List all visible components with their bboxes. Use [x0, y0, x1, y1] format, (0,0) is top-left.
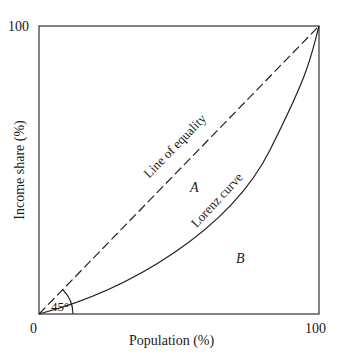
- lorenz-label: Lorenz curve: [188, 169, 246, 230]
- area-a-label: A: [189, 180, 199, 195]
- y-tick-100: 100: [8, 19, 29, 34]
- x-tick-0: 0: [30, 321, 37, 336]
- equality-label: Line of equality: [140, 111, 209, 181]
- x-axis-label: Population (%): [129, 333, 214, 349]
- angle-label: 45°: [51, 299, 69, 314]
- area-b-label: B: [236, 251, 245, 266]
- x-tick-100: 100: [305, 321, 326, 336]
- lorenz-diagram: 100 0 100 Population (%) Income share (%…: [0, 0, 341, 362]
- line-of-equality: [39, 26, 319, 314]
- y-axis-label: Income share (%): [12, 120, 28, 220]
